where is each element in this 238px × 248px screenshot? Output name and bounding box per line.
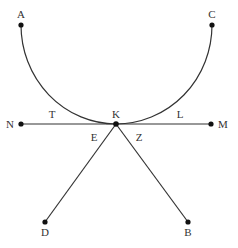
label-n: N [6, 118, 14, 130]
point-a [18, 22, 23, 27]
point-n [18, 121, 23, 126]
label-t: T [49, 108, 56, 120]
label-b: B [184, 226, 191, 238]
label-l: L [177, 108, 184, 120]
label-e: E [91, 131, 98, 143]
label-m: M [218, 118, 228, 130]
point-m [208, 121, 213, 126]
geometry-diagram: A C K N M D B T L E Z [0, 0, 238, 248]
point-b [185, 219, 190, 224]
label-z: Z [136, 131, 143, 143]
label-k: K [112, 108, 120, 120]
line-kd [45, 124, 116, 222]
line-kb [116, 124, 188, 222]
label-d: D [41, 226, 49, 238]
label-a: A [17, 8, 25, 20]
label-c: C [208, 8, 215, 20]
point-k [113, 121, 119, 127]
point-d [42, 219, 47, 224]
point-c [209, 22, 214, 27]
